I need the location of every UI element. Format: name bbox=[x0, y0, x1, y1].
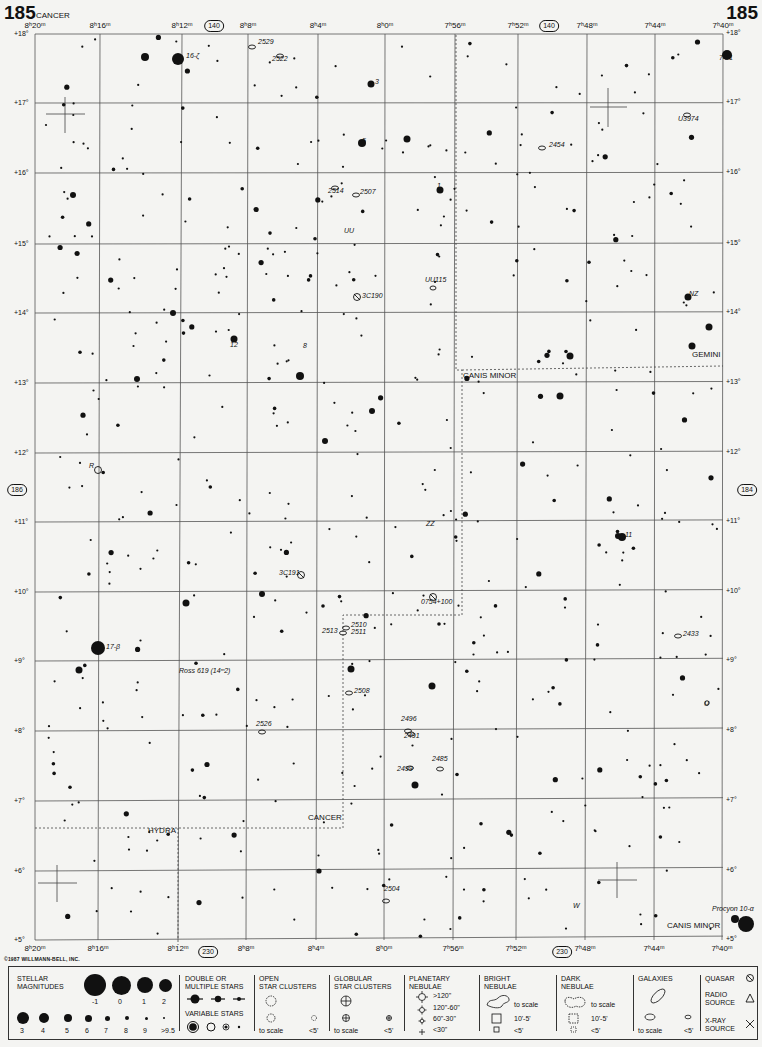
magnitude-label: >9.5 bbox=[161, 1027, 175, 1034]
dec-label-left: +15° bbox=[14, 240, 29, 247]
dec-label-left: +11° bbox=[14, 518, 28, 525]
magnitude-dot bbox=[39, 1013, 49, 1023]
dec-label-right: +12° bbox=[726, 448, 741, 455]
constellation-label: CANIS MINOR bbox=[667, 921, 721, 930]
legend-divider bbox=[179, 975, 180, 1031]
magnitude-label: -1 bbox=[92, 998, 98, 1005]
object-label: 2507 bbox=[359, 188, 377, 195]
object-label: 17-β bbox=[106, 643, 120, 651]
dec-label-right: +10° bbox=[726, 587, 741, 594]
ra-label-bottom: 8ʰ16ᵐ bbox=[88, 944, 109, 953]
coordinate-grid bbox=[35, 34, 723, 940]
object-label: 2454 bbox=[548, 141, 565, 148]
dec-label-right: +14° bbox=[726, 308, 741, 315]
object-label: R bbox=[89, 462, 94, 469]
dec-label-right: +11° bbox=[726, 517, 740, 524]
legend-divider bbox=[700, 975, 701, 1031]
galaxy-icons bbox=[638, 987, 698, 1027]
legend-stellar-magnitudes: STELLAR MAGNITUDES -1012 3456789>9.5 bbox=[9, 967, 179, 1039]
quasar-icon bbox=[745, 973, 755, 983]
radio-source-icon bbox=[745, 993, 755, 1003]
ra-label-top: 8ʰ20ᵐ bbox=[25, 21, 46, 30]
xray-source-icon bbox=[745, 1019, 755, 1029]
ra-label-top: 7ʰ48ᵐ bbox=[577, 21, 598, 30]
ra-label-top: 8ʰ16ᵐ bbox=[90, 21, 111, 30]
stars bbox=[45, 35, 754, 938]
magnitude-dot bbox=[163, 1017, 165, 1019]
object-label: UU115 bbox=[425, 276, 446, 283]
variable-star-icons bbox=[185, 1020, 251, 1034]
constellation-label: CANCER bbox=[36, 11, 70, 20]
dec-label-right: +8° bbox=[726, 726, 737, 733]
magnitude-dot bbox=[145, 1017, 148, 1020]
object-label: Ross 619 (14ᵐ2) bbox=[179, 667, 230, 675]
legend-divider bbox=[556, 975, 557, 1031]
ra-label-bottom: 7ʰ40ᵐ bbox=[712, 944, 733, 953]
dec-label-right: +16° bbox=[726, 168, 741, 175]
legend: STELLAR MAGNITUDES -1012 3456789>9.5 DOU… bbox=[8, 966, 758, 1040]
magnitude-dot bbox=[17, 1012, 29, 1024]
dec-label-right: +18° bbox=[726, 29, 741, 36]
object-label: 0754+100 bbox=[421, 598, 452, 605]
legend-divider bbox=[633, 975, 634, 1031]
dec-label-left: +16° bbox=[14, 169, 29, 176]
magnitude-dot bbox=[137, 977, 153, 993]
star-chart: CANCERGEMINICANIS MINORCANCERHYDRACANIS … bbox=[0, 0, 762, 945]
magnitude-dot bbox=[105, 1016, 110, 1021]
adjacent-chart-bottom-1[interactable]: 230 bbox=[198, 946, 218, 958]
object-label: U3974 bbox=[678, 115, 699, 122]
dec-label-left: +5° bbox=[14, 936, 25, 943]
adjacent-chart-right[interactable]: 184 bbox=[737, 484, 757, 496]
constellation-boundaries bbox=[35, 35, 723, 945]
dec-label-left: +13° bbox=[14, 379, 29, 386]
object-label: W bbox=[573, 902, 581, 909]
ra-label-bottom: 8ʰ4ᵐ bbox=[308, 944, 325, 953]
ra-label-top: 8ʰ4ᵐ bbox=[310, 21, 327, 30]
object-label: ZZ bbox=[425, 520, 435, 527]
ra-label-bottom: 7ʰ48ᵐ bbox=[575, 944, 596, 953]
dec-label-left: +14° bbox=[14, 309, 29, 316]
dec-label-right: +5° bbox=[726, 935, 737, 942]
ra-label-top: 8ʰ12ᵐ bbox=[172, 21, 193, 30]
dec-label-right: +17° bbox=[726, 98, 741, 105]
dec-label-left: +8° bbox=[14, 727, 25, 734]
dec-label-right: +15° bbox=[726, 239, 741, 246]
adjacent-chart-bottom-2[interactable]: 230 bbox=[552, 946, 572, 958]
object-label: NZ bbox=[689, 290, 699, 297]
magnitude-dot bbox=[85, 1015, 92, 1022]
legend-globular-clusters: GLOBULAR STAR CLUSTERS to scale <5' bbox=[332, 967, 402, 1039]
object-label: 2499 bbox=[396, 765, 413, 772]
legend-divider bbox=[329, 975, 330, 1031]
magnitude-label: 2 bbox=[162, 998, 166, 1005]
object-label: 2513 bbox=[321, 627, 338, 634]
ra-label-bottom: 7ʰ52ᵐ bbox=[506, 944, 527, 953]
constellation-label: CANIS MINOR bbox=[463, 371, 517, 380]
dec-label-left: +17° bbox=[14, 99, 29, 106]
adjacent-chart-left[interactable]: 186 bbox=[7, 484, 27, 496]
dec-label-left: +18° bbox=[14, 30, 29, 37]
dec-label-left: +9° bbox=[14, 657, 25, 664]
magnitude-label: 3 bbox=[20, 1027, 24, 1034]
magnitude-dot bbox=[64, 1014, 72, 1022]
object-label: 3C191 bbox=[279, 569, 300, 576]
dec-label-left: +12° bbox=[14, 449, 29, 456]
adjacent-chart-top-1[interactable]: 140 bbox=[204, 20, 224, 32]
constellation-label: CANCER bbox=[308, 813, 342, 822]
object-label: 2510 bbox=[350, 621, 367, 628]
deep-sky-objects bbox=[95, 45, 710, 903]
adjacent-chart-top-2[interactable]: 140 bbox=[539, 20, 559, 32]
magnitude-label: 8 bbox=[124, 1027, 128, 1034]
object-label: 1 bbox=[437, 182, 441, 189]
object-label: 11 bbox=[625, 531, 632, 538]
ra-label-bottom: 8ʰ8ᵐ bbox=[238, 944, 255, 953]
object-label: 2433 bbox=[682, 630, 699, 637]
object-label: 5 bbox=[362, 137, 366, 144]
legend-divider bbox=[479, 975, 480, 1031]
object-label: 2511 bbox=[350, 628, 366, 635]
ra-label-top: 8ʰ0ᵐ bbox=[377, 21, 394, 30]
constellation-label: GEMINI bbox=[692, 350, 720, 359]
object-label: 2504 bbox=[383, 885, 400, 892]
magnitude-dot bbox=[84, 974, 106, 996]
magnitude-dot bbox=[112, 976, 131, 995]
magnitude-label: 9 bbox=[143, 1027, 147, 1034]
